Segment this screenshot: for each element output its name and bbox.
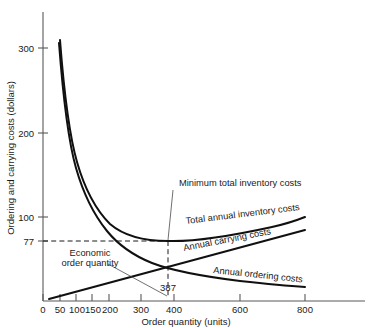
x-tick-label-400: 400 <box>166 304 182 315</box>
series-label-total-annual-inventory-costs: Total annual inventory costs <box>185 202 300 226</box>
annotation-economic-order-quantity-line1: Economic <box>70 248 111 258</box>
x-tick-label-50: 50 <box>55 304 66 315</box>
y-tick-label-100: 100 <box>18 212 34 223</box>
x-tick-label-800: 800 <box>297 304 313 315</box>
eoq-value-label: 387 <box>160 282 176 293</box>
x-tick-label-600: 600 <box>232 304 248 315</box>
x-tick-label-0: 0 <box>40 304 45 315</box>
chart-canvas: 300 200 100 77 0 50 100 150 200 300 400 … <box>0 0 370 328</box>
y-tick-label-300: 300 <box>18 43 34 54</box>
x-tick-label-150: 150 <box>85 304 101 315</box>
eoq-cost-chart: 300 200 100 77 0 50 100 150 200 300 400 … <box>0 0 370 328</box>
y-axis-title: Ordering and carrying costs (dollars) <box>5 81 16 235</box>
series-label-annual-carrying-costs: Annual carrying costs <box>182 226 271 253</box>
series-label-annual-ordering-costs: Annual ordering costs <box>213 265 304 284</box>
annotation-economic-order-quantity-line2: order quantity <box>62 258 119 268</box>
y-tick-label-77: 77 <box>23 236 34 247</box>
x-tick-label-100: 100 <box>69 304 85 315</box>
minimum-cost-leader-line <box>168 190 173 240</box>
annotation-minimum-total-inventory-costs: Minimum total inventory costs <box>179 178 302 188</box>
x-axis-title: Order quantity (units) <box>141 316 230 327</box>
x-tick-label-300: 300 <box>133 304 149 315</box>
x-tick-label-200: 200 <box>102 304 118 315</box>
y-tick-label-200: 200 <box>18 128 34 139</box>
